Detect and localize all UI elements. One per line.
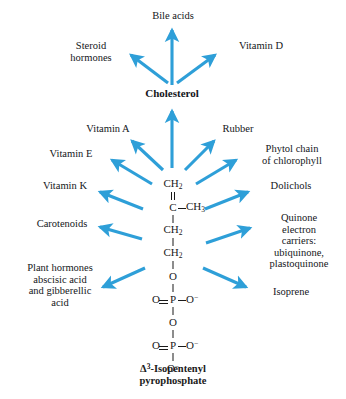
bond-double-horizontal	[159, 300, 168, 304]
atom-ch3: CH3	[186, 201, 205, 213]
atom-o-minus: O−	[186, 294, 198, 305]
atom-p: P	[170, 294, 176, 305]
atom-o-minus: O−	[186, 340, 198, 351]
bond-single-horizontal	[178, 208, 186, 209]
atom-p: P	[170, 340, 176, 351]
label-vitamin-d: Vitamin D	[221, 40, 301, 52]
bond-single-horizontal	[178, 300, 186, 301]
atom-ch2: CH2	[163, 178, 182, 190]
bond-single-horizontal	[178, 346, 186, 347]
atom-ch2: CH2	[163, 247, 182, 259]
label-rubber: Rubber	[207, 123, 269, 135]
label-phytol-chain: Phytol chain of chlorophyll	[243, 143, 341, 166]
bond-single	[103, 284, 243, 292]
bond-single	[103, 330, 243, 338]
structure-atom-ch2-terminal: CH2	[103, 177, 243, 192]
label-vitamin-e: Vitamin E	[36, 148, 106, 160]
atom-ch2: CH2	[163, 224, 182, 236]
structure-atom-ch2-b: CH2	[103, 246, 243, 261]
structure-atom-ch2-a: CH2	[103, 223, 243, 238]
bond-single	[103, 238, 243, 246]
atom-o: O	[169, 317, 177, 328]
bond-single	[103, 307, 243, 315]
arrow-to-vitamin-a	[132, 141, 163, 170]
caption-delta: Δ	[140, 363, 147, 374]
chemical-structure-ipp: CH2 C CH3 CH2 CH2 O O P O− O	[0, 177, 346, 376]
structure-atom-c-methyl: C CH3	[103, 200, 243, 215]
structure-atom-p-alpha: O P O−	[103, 292, 243, 307]
bond-double	[103, 192, 243, 200]
bond-single	[103, 215, 243, 223]
atom-o: O	[169, 271, 177, 282]
label-bile-acids: Bile acids	[133, 10, 213, 22]
arrow-to-rubber	[185, 141, 214, 170]
label-vitamin-a: Vitamin A	[76, 123, 140, 135]
arrow-to-vitamin-d	[177, 55, 215, 83]
caption-line-2: pyrophosphate	[140, 375, 207, 386]
caption-line-1: Δ3-Isopentenyl	[140, 363, 206, 374]
structure-atom-p-beta: O P O−	[103, 338, 243, 353]
label-steroid-hormones: Steroid hormones	[48, 40, 134, 63]
bond-double-horizontal	[159, 346, 168, 350]
label-cholesterol: Cholesterol	[122, 88, 222, 100]
structure-atom-o-ester: O	[103, 269, 243, 284]
diagram-canvas: Bile acids Steroid hormones Vitamin D Ch…	[0, 0, 346, 399]
structure-atom-o-bridge: O	[103, 315, 243, 330]
structure-caption: Δ3-Isopentenyl pyrophosphate	[0, 361, 346, 387]
caption-name: -Isopentenyl	[150, 363, 205, 374]
bond-single	[103, 261, 243, 269]
atom-c: C	[169, 202, 176, 213]
arrow-to-steroid-hormones	[131, 55, 168, 83]
bond-single	[103, 353, 243, 361]
